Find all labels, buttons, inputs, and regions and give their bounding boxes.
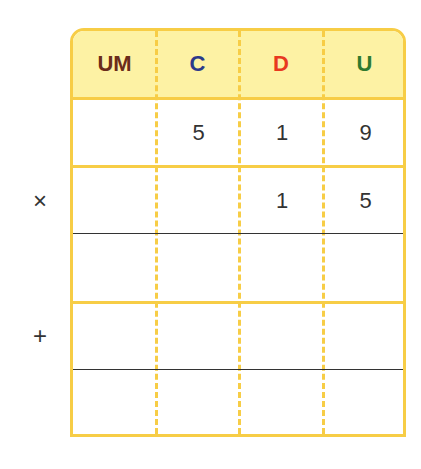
plus-operator: +	[25, 322, 55, 350]
cell-r4-u[interactable]	[325, 304, 406, 370]
cell-r3-d[interactable]	[241, 234, 323, 300]
header-d: D	[239, 31, 323, 97]
cell-r3-u[interactable]	[325, 234, 406, 300]
cell-r5-u[interactable]	[325, 370, 406, 436]
cell-r4-c[interactable]	[158, 304, 239, 370]
cell-r1-um[interactable]	[73, 100, 156, 166]
place-value-table: UM C D U 5 1 9 1 5	[70, 28, 406, 437]
header-um: UM	[73, 31, 156, 97]
cell-r2-c[interactable]	[158, 168, 239, 234]
cell-r1-d[interactable]: 1	[241, 100, 323, 166]
cell-r2-um[interactable]	[73, 168, 156, 234]
header-c: C	[156, 31, 239, 97]
cell-r2-u[interactable]: 5	[325, 168, 406, 234]
cell-r1-u[interactable]: 9	[325, 100, 406, 166]
cell-r1-c[interactable]: 5	[158, 100, 239, 166]
cell-r4-um[interactable]	[73, 304, 156, 370]
cell-r5-d[interactable]	[241, 370, 323, 436]
cell-r2-d[interactable]: 1	[241, 168, 323, 234]
cell-r5-um[interactable]	[73, 370, 156, 436]
cell-r5-c[interactable]	[158, 370, 239, 436]
cell-r3-um[interactable]	[73, 234, 156, 300]
header-u: U	[323, 31, 406, 97]
cell-r3-c[interactable]	[158, 234, 239, 300]
multiply-operator: ×	[25, 187, 55, 215]
cell-r4-d[interactable]	[241, 304, 323, 370]
